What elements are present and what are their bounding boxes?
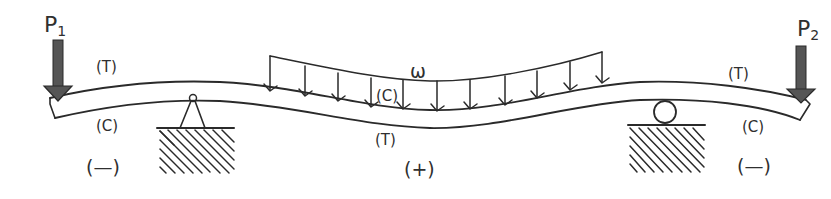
- mid-moment-sign: (+): [404, 160, 435, 179]
- p1-label-subscript: 1: [57, 23, 66, 39]
- p2-arrow-icon: [787, 46, 815, 103]
- roller-support-icon: [628, 101, 705, 172]
- p1-label: P1: [44, 14, 66, 38]
- ground-hatch: [160, 130, 234, 173]
- load-arrows: [264, 52, 609, 111]
- beam: [50, 82, 810, 129]
- left-moment-sign: (—): [86, 158, 120, 177]
- pin-support-icon: [157, 95, 234, 174]
- p2-label-letter: P: [797, 16, 810, 41]
- right-moment-sign: (—): [737, 157, 771, 176]
- p2-label: P2: [797, 18, 819, 42]
- right-top-tension-label: (T): [728, 67, 749, 82]
- distributed-load-label: ω: [410, 62, 426, 81]
- left-bottom-compression-label: (C): [96, 119, 118, 134]
- left-top-tension-label: (T): [96, 60, 117, 75]
- mid-bottom-tension-label: (T): [375, 133, 396, 148]
- ground-hatch: [630, 128, 704, 172]
- mid-top-compression-label: (C): [376, 89, 398, 104]
- p2-label-subscript: 2: [810, 27, 819, 43]
- distributed-load: [264, 52, 609, 111]
- p1-arrow-icon: [44, 40, 72, 101]
- right-bottom-compression-label: (C): [742, 120, 764, 135]
- p1-label-letter: P: [44, 12, 57, 37]
